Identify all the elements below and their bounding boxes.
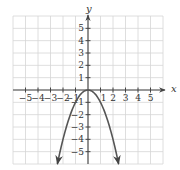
y-tick-label: 3 bbox=[78, 48, 84, 58]
x-tick-label: 5 bbox=[148, 93, 154, 103]
parabola-graph: −5−4−3−2−112345−5−4−3−2−112345 x y bbox=[0, 0, 180, 170]
x-tick-label: 3 bbox=[123, 93, 129, 103]
y-axis-label: y bbox=[85, 3, 92, 14]
x-tick-label: 2 bbox=[110, 93, 116, 103]
y-tick-label: 2 bbox=[78, 60, 84, 70]
y-tick-label: 5 bbox=[78, 23, 84, 33]
x-axis-label: x bbox=[171, 83, 177, 94]
x-tick-label: 4 bbox=[135, 93, 141, 103]
x-tick-label: −4 bbox=[31, 93, 45, 103]
x-tick-label: 1 bbox=[101, 93, 107, 103]
x-tick-label: −3 bbox=[44, 93, 58, 103]
y-tick-label: 4 bbox=[78, 36, 84, 46]
y-tick-label: −5 bbox=[71, 147, 85, 157]
x-tick-label: −5 bbox=[19, 93, 33, 103]
y-tick-label: 1 bbox=[78, 73, 84, 83]
y-tick-label: −4 bbox=[71, 134, 85, 144]
y-tick-label: −3 bbox=[71, 122, 85, 132]
y-tick-label: −2 bbox=[71, 110, 84, 120]
